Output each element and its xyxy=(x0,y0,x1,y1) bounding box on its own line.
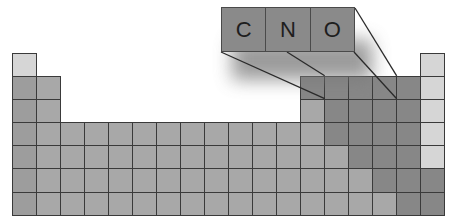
element-cell xyxy=(300,99,325,123)
element-cell xyxy=(372,122,397,146)
element-cell xyxy=(396,99,421,123)
element-cell xyxy=(396,145,421,169)
element-cell xyxy=(396,192,421,216)
element-cell xyxy=(228,168,253,192)
element-cell xyxy=(36,76,61,100)
element-cell xyxy=(228,122,253,146)
element-cell xyxy=(396,168,421,192)
element-cell xyxy=(300,145,325,169)
element-cell xyxy=(204,168,229,192)
element-cell xyxy=(36,168,61,192)
element-cell xyxy=(12,122,37,146)
element-cell xyxy=(60,145,85,169)
element-cell xyxy=(252,145,277,169)
element-cell xyxy=(228,145,253,169)
element-cell xyxy=(420,145,445,169)
element-cell xyxy=(348,145,373,169)
element-cell xyxy=(84,168,109,192)
element-oxygen: O xyxy=(311,8,354,51)
element-cell xyxy=(252,192,277,216)
element-cell xyxy=(132,168,157,192)
element-cell xyxy=(372,168,397,192)
element-cell xyxy=(324,168,349,192)
element-cell xyxy=(348,192,373,216)
element-cell xyxy=(252,122,277,146)
element-cell xyxy=(108,145,133,169)
element-cell xyxy=(276,122,301,146)
element-cell xyxy=(324,192,349,216)
element-cell xyxy=(276,145,301,169)
element-cell xyxy=(348,122,373,146)
element-cell xyxy=(420,122,445,146)
element-cell xyxy=(12,192,37,216)
element-cell xyxy=(156,145,181,169)
element-cell xyxy=(36,122,61,146)
element-cell xyxy=(180,192,205,216)
element-cell xyxy=(84,145,109,169)
element-cell xyxy=(12,76,37,100)
element-cell xyxy=(180,145,205,169)
element-cell xyxy=(324,122,349,146)
element-cell xyxy=(396,76,421,100)
element-cell xyxy=(324,145,349,169)
element-cell xyxy=(324,99,349,123)
element-cell xyxy=(348,99,373,123)
element-cell xyxy=(12,168,37,192)
element-cell xyxy=(36,192,61,216)
element-cell xyxy=(252,168,277,192)
element-cell xyxy=(84,122,109,146)
element-cell xyxy=(60,122,85,146)
element-cell xyxy=(372,192,397,216)
element-cell xyxy=(420,168,445,192)
element-cell xyxy=(36,99,61,123)
element-cell xyxy=(108,192,133,216)
element-cell xyxy=(180,122,205,146)
element-cell xyxy=(228,192,253,216)
element-cell xyxy=(132,192,157,216)
element-cell xyxy=(300,168,325,192)
element-cell xyxy=(204,192,229,216)
element-cell xyxy=(132,145,157,169)
element-cell xyxy=(156,168,181,192)
element-cell xyxy=(156,192,181,216)
element-cell xyxy=(108,122,133,146)
element-cell xyxy=(372,99,397,123)
element-cell xyxy=(372,76,397,100)
element-cell xyxy=(420,99,445,123)
element-cell xyxy=(156,122,181,146)
element-cell xyxy=(36,145,61,169)
element-cell xyxy=(12,145,37,169)
element-cell xyxy=(180,168,205,192)
element-cell xyxy=(420,192,445,216)
element-cell xyxy=(396,122,421,146)
element-cell xyxy=(108,168,133,192)
cno-callout: C N O xyxy=(221,7,355,52)
element-cell xyxy=(204,145,229,169)
element-cell xyxy=(276,192,301,216)
element-cell xyxy=(372,145,397,169)
element-cell xyxy=(420,76,445,100)
element-cell xyxy=(132,122,157,146)
element-cell xyxy=(276,168,301,192)
element-cell xyxy=(300,192,325,216)
element-cell xyxy=(348,168,373,192)
periodic-table-figure: C N O xyxy=(0,0,451,224)
element-cell xyxy=(60,168,85,192)
element-carbon: C xyxy=(222,8,266,51)
element-cell xyxy=(300,122,325,146)
element-cell xyxy=(84,192,109,216)
element-cell xyxy=(420,53,445,77)
element-nitrogen: N xyxy=(266,8,310,51)
element-cell xyxy=(12,53,37,77)
element-cell xyxy=(60,192,85,216)
element-cell xyxy=(204,122,229,146)
element-cell xyxy=(12,99,37,123)
